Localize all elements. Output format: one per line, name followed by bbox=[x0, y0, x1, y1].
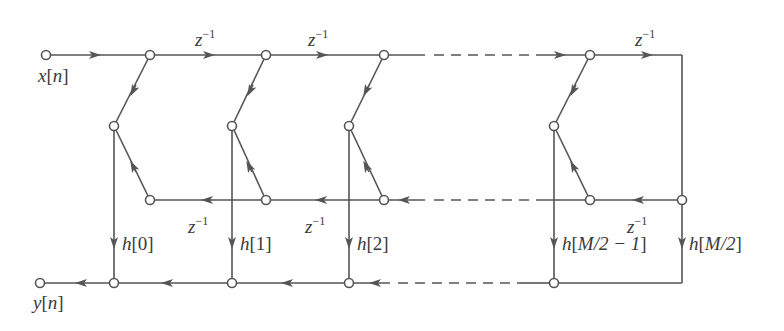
coef-label-hM2: h[M/2] bbox=[689, 234, 742, 253]
delay-label-mid-2: z−1 bbox=[305, 217, 325, 236]
output-node bbox=[36, 279, 45, 288]
delay-exp: −1 bbox=[202, 27, 215, 41]
delay-label-top-1: z−1 bbox=[195, 30, 215, 49]
output-label: y[n] bbox=[33, 293, 64, 312]
input-label: x[n] bbox=[38, 66, 69, 85]
coef-index: 2 bbox=[373, 233, 383, 254]
coef-label-h2: h[2] bbox=[357, 234, 389, 253]
coef-index: 0 bbox=[138, 233, 148, 254]
delay-label-top-2: z−1 bbox=[308, 30, 328, 49]
input-node bbox=[42, 51, 51, 60]
coef-index: M/2 − 1 bbox=[578, 233, 640, 254]
delay-exp: −1 bbox=[195, 214, 208, 228]
input-index: n bbox=[53, 65, 63, 86]
coef-name: h bbox=[562, 233, 572, 254]
coef-index: M/2 bbox=[705, 233, 736, 254]
coef-name: h bbox=[122, 233, 132, 254]
coef-index: 1 bbox=[256, 233, 266, 254]
coef-name: h bbox=[689, 233, 699, 254]
input-var: x bbox=[38, 65, 46, 86]
output-index: n bbox=[48, 292, 58, 313]
coefficient-branches bbox=[114, 130, 682, 283]
signal-flow-graph bbox=[0, 0, 784, 331]
delay-exp: −1 bbox=[315, 27, 328, 41]
coef-name: h bbox=[357, 233, 367, 254]
delay-exp: −1 bbox=[634, 214, 647, 228]
delay-exp: −1 bbox=[312, 214, 325, 228]
delay-label-mid-1: z−1 bbox=[188, 217, 208, 236]
output-var: y bbox=[33, 292, 41, 313]
delay-exp: −1 bbox=[642, 27, 655, 41]
coef-label-hM2m1: h[M/2 − 1] bbox=[562, 234, 647, 253]
coef-name: h bbox=[240, 233, 250, 254]
delay-label-top-3: z−1 bbox=[635, 30, 655, 49]
coef-label-h1: h[1] bbox=[240, 234, 272, 253]
coef-label-h0: h[0] bbox=[122, 234, 154, 253]
